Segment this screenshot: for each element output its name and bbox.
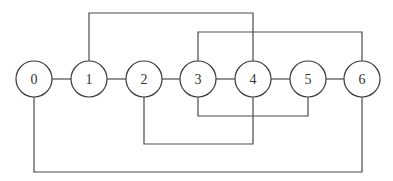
node-label: 1: [86, 72, 93, 87]
node-5: 5: [290, 61, 326, 97]
node-label: 0: [31, 72, 38, 87]
node-label: 2: [141, 72, 148, 87]
node-label: 4: [250, 72, 257, 87]
node-label: 5: [305, 72, 312, 87]
node-2: 2: [126, 61, 162, 97]
edge-1-4: [89, 13, 253, 61]
node-label: 6: [359, 72, 366, 87]
node-label: 3: [195, 72, 202, 87]
node-6: 6: [344, 61, 380, 97]
node-0: 0: [16, 61, 52, 97]
graph-diagram: 0123456: [0, 0, 393, 181]
node-4: 4: [235, 61, 271, 97]
nodes-group: 0123456: [16, 61, 380, 97]
node-3: 3: [180, 61, 216, 97]
node-1: 1: [71, 61, 107, 97]
edge-3-6: [198, 32, 362, 61]
